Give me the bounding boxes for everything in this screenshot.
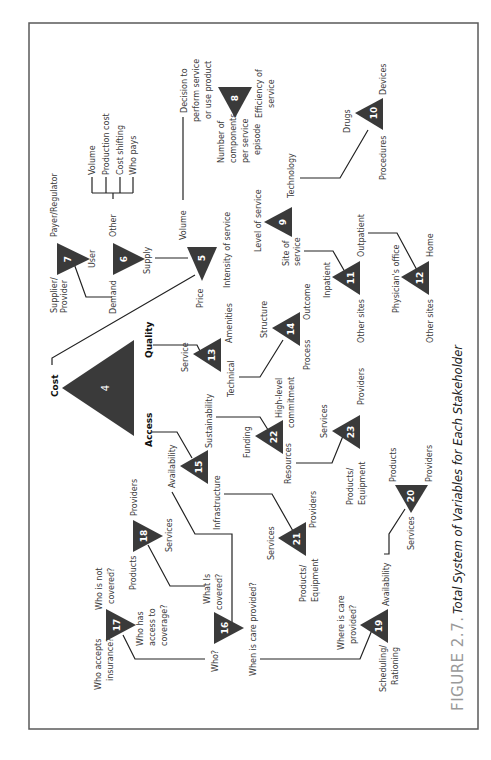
svg-text:7: 7 xyxy=(63,256,73,262)
node-14: 14 xyxy=(272,312,300,346)
node-20: 20 xyxy=(395,485,428,513)
svg-text:Structure: Structure xyxy=(260,301,269,338)
svg-text:Demand: Demand xyxy=(109,280,118,314)
svg-text:19: 19 xyxy=(374,620,384,633)
svg-text:covered?: covered? xyxy=(215,574,224,610)
figure-title: Total System of Variables for Each Stake… xyxy=(451,344,465,614)
node-16: 16 xyxy=(214,612,244,644)
svg-text:22: 22 xyxy=(269,431,279,444)
node-13: 13 xyxy=(193,338,221,372)
svg-text:Volume: Volume xyxy=(88,145,97,175)
svg-text:Who?: Who? xyxy=(211,650,220,672)
svg-text:Site of: Site of xyxy=(282,240,291,266)
svg-text:Services: Services xyxy=(320,404,329,438)
svg-text:14: 14 xyxy=(286,323,296,336)
svg-text:23: 23 xyxy=(346,426,356,439)
figure-label: FIGURE 2.7. xyxy=(449,617,467,711)
svg-text:Equipment: Equipment xyxy=(358,462,367,505)
svg-text:16: 16 xyxy=(220,622,230,635)
svg-text:9: 9 xyxy=(278,219,288,225)
svg-text:provided?: provided? xyxy=(349,605,358,644)
svg-text:15: 15 xyxy=(194,461,204,474)
svg-text:Home: Home xyxy=(426,233,435,257)
svg-text:Who accepts: Who accepts xyxy=(94,639,103,690)
svg-text:Availability: Availability xyxy=(382,562,391,606)
svg-text:covered?: covered? xyxy=(107,568,116,604)
svg-text:4: 4 xyxy=(100,385,111,391)
node-19: 19 xyxy=(360,609,388,643)
svg-text:Products/: Products/ xyxy=(346,467,355,505)
svg-text:Devices: Devices xyxy=(379,63,388,95)
svg-text:Decision to: Decision to xyxy=(180,68,189,113)
svg-text:service: service xyxy=(267,79,276,108)
svg-text:5: 5 xyxy=(197,255,207,261)
svg-text:Providers: Providers xyxy=(309,491,318,528)
svg-text:commitment: commitment xyxy=(287,377,296,428)
svg-text:21: 21 xyxy=(292,533,302,546)
svg-text:Supplier/: Supplier/ xyxy=(50,277,59,313)
svg-text:6: 6 xyxy=(119,256,129,262)
svg-text:Outpatient: Outpatient xyxy=(357,214,366,257)
svg-text:episode: episode xyxy=(253,124,262,155)
svg-text:components: components xyxy=(229,114,238,163)
node-7: 7 xyxy=(57,243,90,275)
svg-text:Cost shifting: Cost shifting xyxy=(116,125,125,175)
svg-text:Who pays: Who pays xyxy=(129,136,138,175)
node-4: 4 xyxy=(62,340,134,436)
svg-text:Infrastructure: Infrastructure xyxy=(213,475,222,530)
svg-text:Amenities: Amenities xyxy=(225,303,234,343)
node-18: 18 xyxy=(133,520,163,552)
node-8: 8 xyxy=(218,87,252,118)
svg-text:Rationing: Rationing xyxy=(391,647,400,685)
svg-text:Number of: Number of xyxy=(217,120,226,163)
svg-text:or use product: or use product xyxy=(204,61,213,119)
node-6: 6 xyxy=(113,243,145,275)
node-21: 21 xyxy=(278,522,306,556)
svg-text:13: 13 xyxy=(207,349,217,362)
svg-text:User: User xyxy=(88,249,97,268)
svg-text:Payer/Regulator: Payer/Regulator xyxy=(50,173,59,237)
svg-text:What Is: What Is xyxy=(203,574,212,604)
node-10: 10 xyxy=(355,98,383,130)
svg-text:Other: Other xyxy=(109,214,118,237)
svg-text:Outcome: Outcome xyxy=(303,283,312,320)
svg-text:8: 8 xyxy=(230,95,240,101)
svg-text:Services: Services xyxy=(165,518,174,552)
svg-text:Products/: Products/ xyxy=(299,564,308,602)
svg-text:coverage?: coverage? xyxy=(160,605,169,646)
stakeholder-variables-diagram: 4 5 6 7 8 9 10 11 12 13 xyxy=(0,0,491,760)
svg-text:Volume: Volume xyxy=(179,210,188,240)
svg-text:Equipment: Equipment xyxy=(311,559,320,602)
svg-text:Price: Price xyxy=(196,288,205,308)
svg-text:20: 20 xyxy=(406,490,416,503)
svg-text:Other sites: Other sites xyxy=(426,299,435,343)
svg-text:Scheduling/: Scheduling/ xyxy=(379,645,388,692)
svg-text:10: 10 xyxy=(369,107,379,120)
svg-text:Products: Products xyxy=(389,447,398,482)
svg-text:Providers: Providers xyxy=(357,368,366,405)
node-11: 11 xyxy=(332,261,360,295)
svg-text:Availability: Availability xyxy=(168,444,177,488)
svg-text:Inpatient: Inpatient xyxy=(323,262,332,298)
svg-text:Production cost: Production cost xyxy=(102,113,111,175)
svg-text:11: 11 xyxy=(346,272,356,285)
svg-text:Process: Process xyxy=(303,340,312,370)
svg-text:Services: Services xyxy=(267,526,276,560)
node-22: 22 xyxy=(255,420,283,454)
svg-text:Other sites: Other sites xyxy=(357,299,366,343)
label-access: Access xyxy=(144,413,154,447)
svg-text:Physician's office: Physician's office xyxy=(392,244,401,313)
svg-text:Who has: Who has xyxy=(136,611,145,646)
svg-text:Sustainability: Sustainability xyxy=(205,394,214,448)
node-23: 23 xyxy=(332,415,360,449)
svg-text:Provider: Provider xyxy=(60,279,69,313)
svg-text:Services: Services xyxy=(407,516,416,550)
svg-text:17: 17 xyxy=(112,619,122,632)
svg-text:18: 18 xyxy=(139,530,149,543)
svg-text:When is care provided?: When is care provided? xyxy=(249,582,258,676)
svg-text:12: 12 xyxy=(415,272,425,285)
svg-text:Who is not: Who is not xyxy=(95,568,104,610)
svg-text:Technology: Technology xyxy=(287,153,296,199)
svg-text:Providers: Providers xyxy=(425,445,434,482)
svg-text:perform service: perform service xyxy=(192,59,201,122)
